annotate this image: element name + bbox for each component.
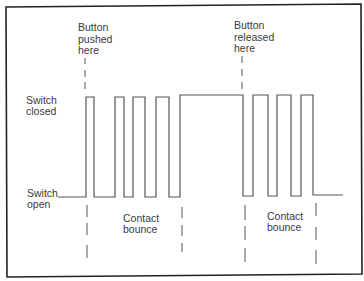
button-pushed-label-line1: Button [78,21,109,33]
button-released-label-line3: here [234,42,255,54]
button-pushed-label-line3: here [78,44,99,56]
bounce-diagram: Button pushed here Button released here … [0,0,364,281]
switch-open-label-line2: open [27,198,51,210]
switch-closed-label-line2: closed [26,105,57,117]
button-released-label-line1: Button [234,19,265,31]
contact-bounce-right-line2: bounce [267,221,302,233]
contact-bounce-left-line2: bounce [123,223,158,235]
diagram-frame [6,4,362,277]
switch-signal-waveform [58,95,343,197]
